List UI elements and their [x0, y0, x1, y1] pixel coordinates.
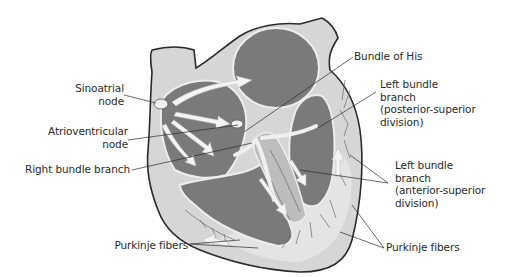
heart-conduction-diagram: Sinoatrial node Atrioventricular node Ri… — [0, 0, 508, 277]
right-atrium — [161, 81, 246, 178]
label-left-bundle-branch-anterior: Left bundle branch (anterior-superior di… — [395, 159, 485, 209]
label-purkinje-fibers-left: Purkinje fibers — [114, 239, 188, 252]
label-sinoatrial-node: Sinoatrial node — [75, 82, 124, 107]
label-left-bundle-branch-posterior: Left bundle branch (posterior-superior d… — [380, 78, 476, 128]
sinoatrial-node — [154, 99, 168, 109]
atrioventricular-node — [231, 120, 243, 128]
label-purkinje-fibers-right: Purkinje fibers — [386, 241, 460, 254]
left-atrium — [233, 28, 319, 108]
label-bundle-of-his: Bundle of His — [354, 50, 422, 63]
label-right-bundle-branch: Right bundle branch — [25, 163, 130, 176]
label-atrioventricular-node: Atrioventricular node — [48, 125, 128, 150]
